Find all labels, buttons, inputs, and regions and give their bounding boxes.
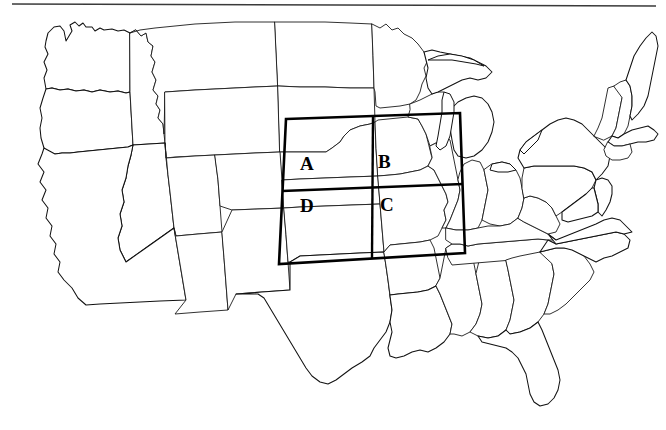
quadrant-label-c: C: [380, 195, 394, 214]
scan-frame-top-line: [12, 4, 656, 6]
quadrant-label-a: A: [300, 154, 314, 173]
northeast-states-group: [518, 32, 658, 222]
western-states-group: [38, 22, 392, 384]
quadrant-label-d: D: [300, 196, 314, 215]
quadrant-label-b: B: [378, 152, 391, 171]
us-map-figure: A B D C: [0, 0, 666, 430]
us-map-svg: [0, 0, 666, 430]
